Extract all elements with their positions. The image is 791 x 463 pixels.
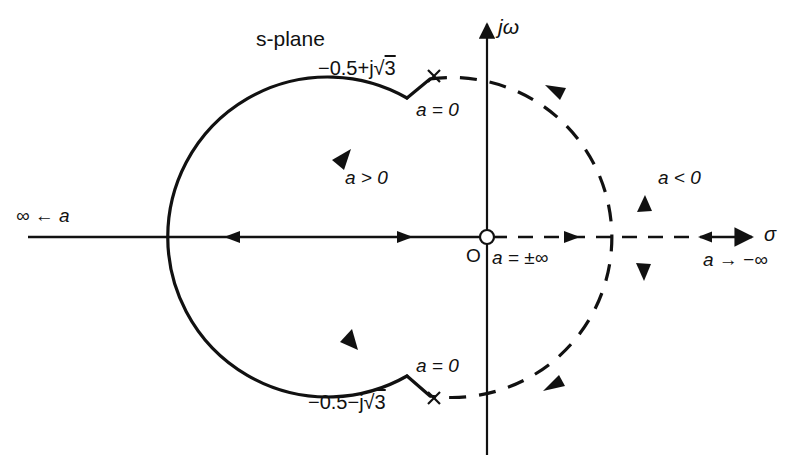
pole-upper-label: −0.5+j√3 xyxy=(318,58,396,78)
sqrt-icon-lower: √ xyxy=(364,391,375,413)
real-axis-arrow-rightward-dashed xyxy=(564,231,580,243)
real-axis-arrow-left-at-right-tip xyxy=(698,232,712,243)
locus-solid-arc-lower-tail xyxy=(407,376,430,396)
real-axis-arrow-leftward-outer xyxy=(224,231,240,243)
real-axis-label: σ xyxy=(764,224,776,244)
locus-solid-arc-upper-tail xyxy=(407,79,430,98)
pole-lower-radicand: 3 xyxy=(375,391,386,413)
root-locus-figure: s-plane jω σ O −0.5+j√3 −0.5−j√3 a = 0 a… xyxy=(0,0,791,463)
gain-negative-label: a < 0 xyxy=(658,168,701,187)
pole-lower-label: −0.5−j√3 xyxy=(308,392,386,412)
zero-marker-origin xyxy=(480,230,494,244)
locus-dashed-arrow-top xyxy=(545,85,566,100)
pole-marker-lower xyxy=(428,392,440,404)
locus-dashed-arrow-right-upper xyxy=(637,195,652,212)
gain-zero-lower-label: a = 0 xyxy=(416,356,459,375)
imaginary-axis-label: jω xyxy=(498,16,519,37)
gain-plus-infinity-left-label: ∞ ← a xyxy=(16,206,70,225)
real-axis-arrow-rightward-inner xyxy=(397,231,413,243)
pole-lower-label-text: −0.5−j xyxy=(308,391,364,413)
locus-dashed-arrow-bottom xyxy=(543,375,565,391)
pole-upper-label-text: −0.5+j xyxy=(318,57,374,79)
origin-label: O xyxy=(466,246,481,265)
gain-infinite-origin-label: a = ±∞ xyxy=(492,248,548,267)
pole-upper-radicand: 3 xyxy=(385,57,396,79)
gain-zero-upper-label: a = 0 xyxy=(416,100,459,119)
pole-marker-upper xyxy=(428,70,440,82)
s-plane-label: s-plane xyxy=(256,28,325,49)
gain-positive-label: a > 0 xyxy=(345,168,388,187)
locus-dashed-arrow-right-lower xyxy=(636,263,651,281)
sqrt-icon-upper: √ xyxy=(374,57,385,79)
locus-solid-arrow-lower xyxy=(340,329,358,350)
real-axis xyxy=(28,231,752,243)
gain-minus-infinity-right-label: a → −∞ xyxy=(703,250,768,269)
